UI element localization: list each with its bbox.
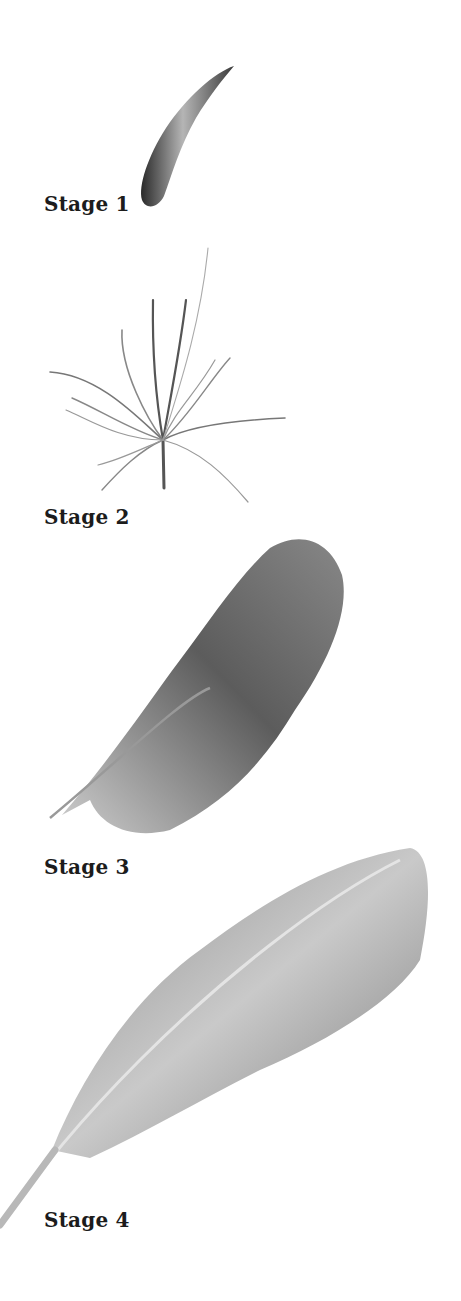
stage-1-label: Stage 1 — [44, 192, 130, 216]
stage-3-downy-feather — [50, 539, 344, 833]
stage-2-tuft — [50, 248, 285, 502]
stage-1-bud — [141, 66, 234, 206]
stage-2-label: Stage 2 — [44, 505, 130, 529]
stage-3-label: Stage 3 — [44, 855, 130, 879]
stage-4-vane-feather — [0, 848, 428, 1225]
stage-4-label: Stage 4 — [44, 1208, 130, 1232]
